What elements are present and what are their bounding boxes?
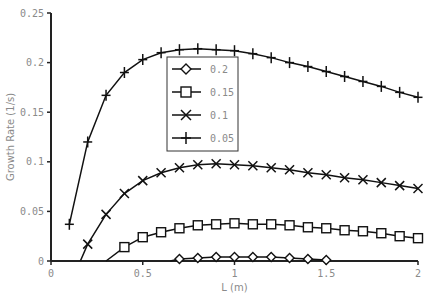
legend-label: 0.1 <box>210 110 228 121</box>
y-tick-label: 0.15 <box>20 107 44 118</box>
legend-label: 0.15 <box>210 87 234 98</box>
x-tick-label: 0.5 <box>134 268 152 279</box>
y-tick-label: 0.25 <box>20 8 44 19</box>
y-tick-label: 0.2 <box>26 57 44 68</box>
series-layer <box>65 43 423 264</box>
legend-label: 0.2 <box>210 64 228 75</box>
x-tick-label: 1.5 <box>317 268 335 279</box>
legend: 0.20.150.10.05 <box>167 57 238 151</box>
series-0.15 <box>106 219 422 261</box>
x-tick-label: 2 <box>415 268 421 279</box>
series-0.2 <box>170 253 330 265</box>
series-0.1 <box>80 159 422 261</box>
x-tick-label: 1 <box>231 268 237 279</box>
y-tick-label: 0.1 <box>26 156 44 167</box>
legend-label: 0.05 <box>210 133 234 144</box>
series-0.05 <box>65 43 423 230</box>
y-axis-label: Growth Rate (1/s) <box>5 93 16 181</box>
y-tick-label: 0.05 <box>20 206 44 217</box>
x-axis-label: L (m) <box>221 282 247 293</box>
growth-rate-chart: 00.050.10.150.20.2500.511.52L (m)Growth … <box>0 0 431 301</box>
x-tick-label: 0 <box>48 268 54 279</box>
y-tick-label: 0 <box>38 256 44 267</box>
